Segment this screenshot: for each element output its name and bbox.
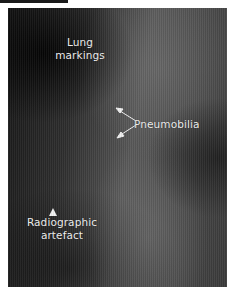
label-artefact-line2: artefact [22,229,102,242]
label-artefact-line1: Radiographic [22,216,102,229]
artefact-arrowhead-icon [49,208,57,216]
label-lung-markings: Lung markings [50,36,110,62]
pneumobilia-arrow-up-icon [116,108,136,121]
label-lung-line2: markings [50,49,110,62]
annotation-arrows [8,8,227,287]
label-lung-line1: Lung [50,36,110,49]
label-pneumobilia: Pneumobilia [134,118,204,131]
pneumobilia-arrow-down-icon [117,125,136,138]
xray-image: Lung markings Pneumobilia Radiographic a… [8,8,227,287]
top-border-bar [0,0,68,3]
label-radiographic-artefact: Radiographic artefact [22,216,102,242]
